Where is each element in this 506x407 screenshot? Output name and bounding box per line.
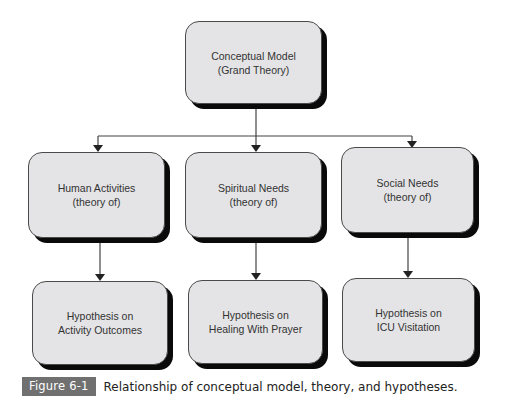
node-hypothesis-healing-with-prayer: Hypothesis on Healing With Prayer xyxy=(188,280,323,364)
node-text-line1: Hypothesis on xyxy=(67,309,134,323)
node-hypothesis-activity-outcomes: Hypothesis on Activity Outcomes xyxy=(32,281,168,365)
diagram-canvas: Conceptual Model (Grand Theory) Human Ac… xyxy=(0,0,506,407)
figure-caption-text: Relationship of conceptual model, theory… xyxy=(104,380,458,394)
node-text-line2: (Grand Theory) xyxy=(218,63,290,77)
node-hypothesis-icu-visitation: Hypothesis on ICU Visitation xyxy=(342,278,475,362)
node-conceptual-model: Conceptual Model (Grand Theory) xyxy=(185,21,322,104)
node-text-line1: Social Needs xyxy=(377,176,439,190)
node-text-line2: (theory of) xyxy=(73,195,121,209)
node-theory-human-activities: Human Activities (theory of) xyxy=(28,152,165,238)
node-text-line1: Hypothesis on xyxy=(222,308,289,322)
node-theory-spiritual-needs: Spiritual Needs (theory of) xyxy=(185,152,322,238)
node-text-line1: Hypothesis on xyxy=(375,306,442,320)
node-text-line2: (theory of) xyxy=(230,195,278,209)
node-text-line1: Human Activities xyxy=(58,181,136,195)
node-text-line2: Healing With Prayer xyxy=(209,322,302,336)
node-text-line2: (theory of) xyxy=(384,190,432,204)
figure-caption: Figure 6-1 Relationship of conceptual mo… xyxy=(22,377,458,396)
node-theory-social-needs: Social Needs (theory of) xyxy=(341,147,474,233)
node-text-line1: Conceptual Model xyxy=(211,49,296,63)
node-text-line2: ICU Visitation xyxy=(377,320,440,334)
node-text-line1: Spiritual Needs xyxy=(218,181,289,195)
figure-label: Figure 6-1 xyxy=(22,377,96,396)
node-text-line2: Activity Outcomes xyxy=(58,323,142,337)
